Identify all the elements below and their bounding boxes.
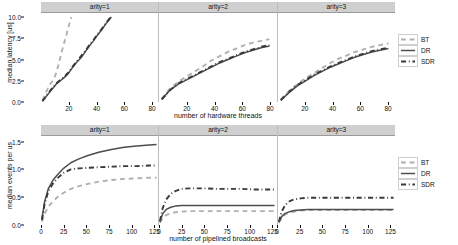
series-line-sdr: [280, 48, 388, 101]
x-tick-label: 100: [126, 228, 137, 235]
legend-label: SDR: [421, 58, 435, 65]
y-tick-label: 7.5: [12, 35, 21, 42]
plot-area: [278, 12, 395, 102]
x-tick-label: 20: [183, 105, 190, 112]
facet-panel: arity=1: [41, 125, 159, 225]
plot-area: [159, 135, 276, 225]
x-tick-label: 75: [341, 228, 348, 235]
facet-panel: arity=3: [278, 2, 395, 102]
y-axis-ticks-bottom: 0.00.51.01.5: [0, 125, 24, 225]
y-tick-label: 1.0: [12, 166, 21, 173]
plot-area: [159, 12, 276, 102]
facet-title: arity=3: [326, 4, 346, 11]
y-tick-mark: [21, 80, 24, 81]
legend-item-sdr: SDR: [398, 56, 452, 67]
legend-top: BTDRSDR: [398, 34, 452, 67]
legend-key-swatch: [398, 168, 418, 179]
x-tick-label: 80: [266, 105, 273, 112]
legend-item-bt: BT: [398, 157, 452, 168]
figure-panel-grid: median latency [us] 0.02.55.07.510.0 ari…: [0, 0, 458, 245]
y-axis-ticks-top: 0.02.55.07.510.0: [0, 2, 24, 102]
legend-key-swatch: [398, 157, 418, 168]
legend-item-dr: DR: [398, 45, 452, 56]
y-tick-label: 1.5: [12, 138, 21, 145]
y-tick-label: 2.5: [12, 77, 21, 84]
y-tick-mark: [21, 59, 24, 60]
x-tick-label: 125: [385, 228, 396, 235]
x-tick-label: 0: [157, 228, 161, 235]
x-tick-label: 100: [362, 228, 373, 235]
y-tick-mark: [21, 225, 24, 226]
series-line-sdr: [160, 188, 275, 221]
y-tick-mark: [21, 38, 24, 39]
y-tick-mark: [21, 197, 24, 198]
x-tick-label: 20: [301, 105, 308, 112]
x-tick-label: 25: [296, 228, 303, 235]
x-axis-title-bottom: number of pipelined broadcasts: [41, 235, 395, 242]
y-tick-mark: [21, 17, 24, 18]
legend-bottom: BTDRSDR: [398, 157, 452, 190]
legend-item-dr: DR: [398, 168, 452, 179]
y-tick-label: 0.5: [12, 194, 21, 201]
y-tick-label: 0.0: [12, 222, 21, 229]
x-tick-label: 20: [65, 105, 72, 112]
series-line-bt: [42, 178, 157, 222]
x-tick-label: 100: [244, 228, 255, 235]
facet-title: arity=1: [90, 4, 110, 11]
x-tick-label: 0: [39, 228, 43, 235]
series-line-dr: [42, 144, 157, 219]
legend-item-bt: BT: [398, 34, 452, 45]
legend-item-sdr: SDR: [398, 179, 452, 190]
legend-label: DR: [421, 47, 430, 54]
series-line-bt: [42, 17, 71, 100]
x-tick-label: 80: [384, 105, 391, 112]
legend-key-swatch: [398, 56, 418, 67]
facet-panel: arity=1: [41, 2, 159, 102]
series-line-dr: [160, 206, 275, 222]
facet-panel: arity=3: [278, 125, 395, 225]
series-line-bt: [160, 211, 275, 223]
x-tick-label: 40: [211, 105, 218, 112]
facet-panels-top: arity=1arity=2arity=3: [41, 2, 395, 102]
latency-chart: median latency [us] 0.02.55.07.510.0 ari…: [0, 2, 458, 122]
plot-area: [41, 135, 158, 225]
x-tick-label: 60: [357, 105, 364, 112]
x-tick-label: 50: [201, 228, 208, 235]
y-tick-label: 5.0: [12, 56, 21, 63]
x-tick-label: 60: [239, 105, 246, 112]
x-tick-label: 50: [319, 228, 326, 235]
y-tick-mark: [21, 102, 24, 103]
facet-title: arity=1: [90, 127, 110, 134]
facet-title: arity=2: [208, 4, 228, 11]
x-tick-label: 50: [83, 228, 90, 235]
legend-key-swatch: [398, 179, 418, 190]
x-tick-label: 75: [223, 228, 230, 235]
x-tick-label: 60: [121, 105, 128, 112]
series-line-dr: [162, 46, 270, 99]
plot-area: [41, 12, 158, 102]
y-tick-mark: [21, 141, 24, 142]
facet-panels-bottom: arity=1arity=2arity=3: [41, 125, 395, 225]
y-tick-mark: [21, 169, 24, 170]
series-line-sdr: [42, 16, 111, 101]
legend-label: BT: [421, 36, 429, 43]
x-tick-label: 25: [60, 228, 67, 235]
x-tick-label: 80: [148, 105, 155, 112]
plot-area: [278, 135, 395, 225]
x-tick-label: 25: [178, 228, 185, 235]
y-tick-label: 0.0: [12, 99, 21, 106]
throughput-chart: median events per us 0.00.51.01.5 arity=…: [0, 125, 458, 245]
series-line-bt: [162, 39, 270, 98]
facet-panel: arity=2: [159, 2, 277, 102]
legend-label: SDR: [421, 181, 435, 188]
legend-label: DR: [421, 170, 430, 177]
x-tick-label: 40: [93, 105, 100, 112]
x-tick-label: 0: [275, 228, 279, 235]
x-axis-title-top: number of hardware threads: [41, 112, 395, 119]
facet-panel: arity=2: [159, 125, 277, 225]
legend-label: BT: [421, 159, 429, 166]
facet-title: arity=2: [208, 127, 228, 134]
series-line-sdr: [162, 45, 270, 99]
series-line-bt: [279, 210, 394, 223]
y-tick-label: 10.0: [8, 14, 21, 21]
